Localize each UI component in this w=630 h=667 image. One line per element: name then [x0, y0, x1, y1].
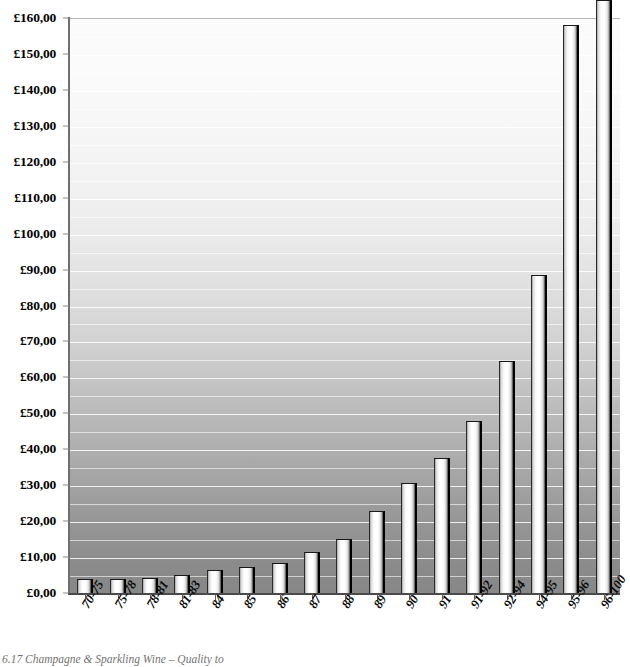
- y-axis-tick-label: £60,00: [0, 369, 56, 385]
- bar-slot: [588, 0, 620, 594]
- bar-slot: [361, 0, 393, 594]
- y-axis-tick-label: £80,00: [0, 298, 56, 314]
- bar-slot: [263, 0, 295, 594]
- y-axis-tick-label: £130,00: [0, 118, 56, 134]
- y-axis-tick-label: £120,00: [0, 154, 56, 170]
- bar-slot: [166, 0, 198, 594]
- y-axis-tick-label: £40,00: [0, 441, 56, 457]
- y-axis-tick-label: £150,00: [0, 46, 56, 62]
- bar: [499, 361, 515, 593]
- bar-slot: [458, 0, 490, 594]
- bar-slot: [134, 0, 166, 594]
- y-axis-tick-label: £50,00: [0, 405, 56, 421]
- figure-caption: 6.17 Champagne & Sparkling Wine – Qualit…: [2, 653, 224, 665]
- bar: [272, 563, 288, 593]
- y-axis-tick-label: £90,00: [0, 262, 56, 278]
- bar: [401, 483, 417, 593]
- bar-slot: [393, 0, 425, 594]
- x-axis-labels: 70-7575-7878-8181-83848586878889909191-9…: [69, 601, 620, 653]
- bar-slot: [555, 0, 587, 594]
- bar: [239, 567, 255, 593]
- y-axis-tick-label: £140,00: [0, 82, 56, 98]
- bar: [563, 25, 579, 593]
- bar: [466, 421, 482, 594]
- bar: [596, 0, 612, 593]
- y-axis-tick-label: £20,00: [0, 513, 56, 529]
- y-axis: £0,00£10,00£20,00£30,00£40,00£50,00£60,0…: [0, 0, 68, 667]
- bar-slot: [523, 0, 555, 594]
- bar: [434, 458, 450, 593]
- bar-slot: [296, 0, 328, 594]
- bar-slot: [426, 0, 458, 594]
- bar: [531, 275, 547, 593]
- y-axis-tick-label: £110,00: [0, 190, 56, 206]
- bar-slot: [101, 0, 133, 594]
- y-axis-tick-label: £100,00: [0, 226, 56, 242]
- y-axis-tick-label: £30,00: [0, 477, 56, 493]
- bar: [207, 570, 223, 593]
- bar-slot: [328, 0, 360, 594]
- bar-slot: [69, 0, 101, 594]
- bar: [369, 511, 385, 593]
- y-axis-tick-label: £70,00: [0, 333, 56, 349]
- y-axis-tick-label: £10,00: [0, 549, 56, 565]
- bar-series: [69, 0, 620, 594]
- y-axis-tick-label: £160,00: [0, 10, 56, 26]
- bar-slot: [231, 0, 263, 594]
- bar: [336, 539, 352, 593]
- bar-slot: [199, 0, 231, 594]
- y-axis-tick-label: £0,00: [0, 585, 56, 601]
- bar-slot: [490, 0, 522, 594]
- bar: [304, 552, 320, 593]
